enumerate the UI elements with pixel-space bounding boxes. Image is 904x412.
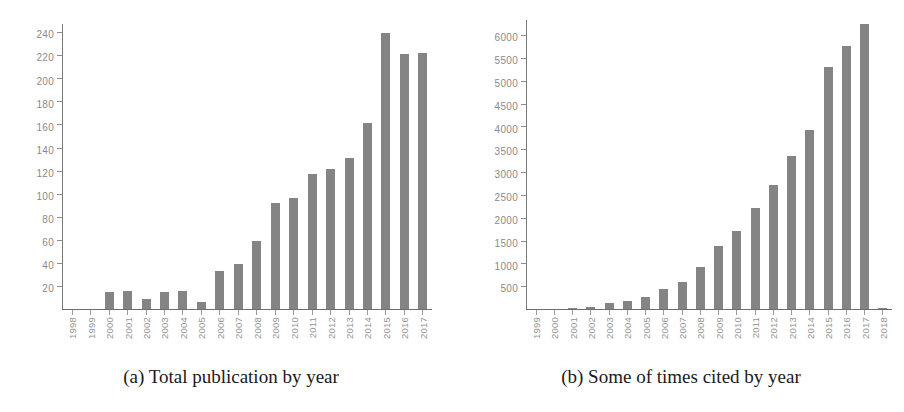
bar (160, 292, 169, 309)
x-tick-mark (846, 310, 847, 315)
x-label-cell: 2016 (395, 317, 413, 361)
x-tick-cell (229, 310, 247, 316)
x-tick-cell (137, 310, 155, 316)
x-axis-label: 2009 (713, 317, 724, 339)
bar-cell (63, 24, 81, 309)
bar-cell (856, 20, 874, 309)
x-tick-mark (385, 310, 386, 315)
bar-cell (284, 24, 302, 309)
x-tick-cell (856, 310, 874, 316)
x-tick-cell (81, 310, 99, 316)
y-tick-mark (521, 172, 526, 173)
y-tick-mark (57, 78, 62, 79)
x-tick-cell (728, 310, 746, 316)
bar (326, 169, 335, 309)
x-tick-mark (663, 310, 664, 315)
x-axis-label: 2004 (177, 317, 188, 339)
bar-cell (118, 24, 136, 309)
y-tick-label: 140 (36, 145, 54, 156)
x-axis-label: 2003 (159, 317, 170, 339)
bar (623, 301, 632, 309)
x-label-cell: 2007 (673, 317, 691, 361)
x-tick-mark (219, 310, 220, 315)
x-label-cell: 2015 (819, 317, 837, 361)
bar-cell (155, 24, 173, 309)
bar (568, 308, 577, 309)
y-tick-label: 20 (42, 283, 54, 294)
x-tick-mark (404, 310, 405, 315)
bar-cell (655, 20, 673, 309)
x-tick-cell (377, 310, 395, 316)
bar (824, 67, 833, 309)
x-label-cell: 1998 (63, 317, 81, 361)
bar-chart-total-publication: 20406080100120140160180200220240 1998199… (62, 24, 432, 310)
bar (271, 203, 280, 309)
bar-cell (229, 24, 247, 309)
x-tick-cell (414, 310, 432, 316)
y-tick-label: 2500 (495, 192, 518, 203)
x-axis-label: 2004 (622, 317, 633, 339)
x-axis-label: 2008 (695, 317, 706, 339)
x-label-cell: 1999 (81, 317, 99, 361)
x-tick-cell (63, 310, 81, 316)
x-label-cell: 2002 (582, 317, 600, 361)
x-label-cell: 2014 (358, 317, 376, 361)
x-tick-mark (293, 310, 294, 315)
bar (123, 291, 132, 309)
y-tick-mark (521, 58, 526, 59)
x-label-cell: 1999 (527, 317, 545, 361)
x-tick-cell (691, 310, 709, 316)
bar-cell (266, 24, 284, 309)
x-label-cell: 2017 (414, 317, 432, 361)
y-tick-label: 1500 (495, 238, 518, 249)
bar-cell (340, 24, 358, 309)
bar (586, 307, 595, 309)
x-tick-mark (627, 310, 628, 315)
panel-caption-a: (a) Total publication by year (0, 366, 452, 388)
x-axis-label: 1999 (85, 317, 96, 339)
x-tick-mark (809, 310, 810, 315)
bar (418, 53, 427, 309)
x-tick-mark (312, 310, 313, 315)
x-tick-cell (801, 310, 819, 316)
x-tick-mark (201, 310, 202, 315)
x-label-cell: 2004 (618, 317, 636, 361)
y-tick-mark (521, 218, 526, 219)
x-label-cell: 2006 (211, 317, 229, 361)
x-axis-label: 2014 (804, 317, 815, 339)
y-tick-mark (57, 286, 62, 287)
x-tick-cell (655, 310, 673, 316)
x-tick-mark (609, 310, 610, 315)
bar-cell (874, 20, 892, 309)
x-tick-mark (736, 310, 737, 315)
bar-cell (303, 24, 321, 309)
y-tick-mark (57, 217, 62, 218)
y-tick-mark (521, 286, 526, 287)
bar-cell (637, 20, 655, 309)
x-tick-cell (582, 310, 600, 316)
bar (197, 302, 206, 309)
y-tick-mark (57, 148, 62, 149)
x-label-cell: 2000 (545, 317, 563, 361)
x-axis-label: 2010 (731, 317, 742, 339)
x-tick-mark (422, 310, 423, 315)
y-tick-label: 120 (36, 168, 54, 179)
x-label-cell: 2005 (637, 317, 655, 361)
x-label-cell: 2014 (801, 317, 819, 361)
x-axis-label: 2011 (750, 317, 761, 338)
y-tick-mark (521, 263, 526, 264)
x-axis-label: 2011 (307, 317, 318, 338)
x-tick-mark (791, 310, 792, 315)
x-label-cell: 2006 (655, 317, 673, 361)
bar-cell (527, 20, 545, 309)
x-tick-cell (303, 310, 321, 316)
x-axis-label: 2015 (823, 317, 834, 339)
bar (142, 299, 151, 309)
x-axis-label: 2001 (567, 317, 578, 339)
x-tick-mark (90, 310, 91, 315)
x-tick-cell (637, 310, 655, 316)
x-axis-label: 2013 (344, 317, 355, 339)
x-axis-label: 2010 (288, 317, 299, 339)
bar (400, 54, 409, 309)
x-label-cell: 2011 (746, 317, 764, 361)
